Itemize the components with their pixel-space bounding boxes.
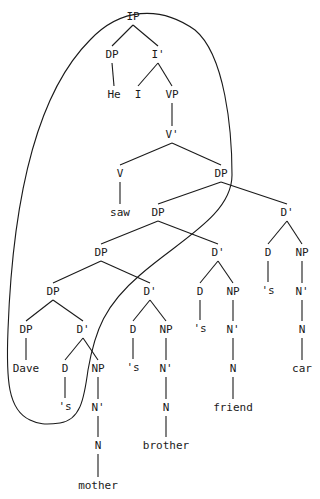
tree-edge	[138, 63, 158, 86]
tree-edge	[65, 338, 83, 360]
tree-node-label: N	[95, 439, 102, 452]
tree-edge	[112, 25, 133, 46]
tree-edge	[221, 182, 287, 204]
tree-node-label: N'	[295, 285, 308, 298]
tree-node-label: D	[62, 362, 69, 375]
tree-node-label: D'	[211, 246, 224, 259]
tree-node-label: 's	[261, 284, 274, 297]
tree-edge	[101, 221, 158, 244]
tree-edge	[158, 182, 221, 204]
tree-node-label: NP	[91, 362, 105, 375]
tree-edge	[53, 300, 83, 321]
tree-node-label: 's	[126, 361, 139, 374]
tree-edge	[158, 221, 218, 244]
tree-node-label: N'	[226, 323, 239, 336]
tree-node-label: NP	[159, 323, 173, 336]
tree-nodes: IPDPI'HeIVPV'VDPsawDPD'DPD'DNPDPD'DNP'sN…	[13, 10, 313, 492]
tree-edge	[53, 261, 101, 283]
tree-node-label: DP	[94, 246, 108, 259]
tree-edge	[26, 300, 53, 321]
tree-node-label: D'	[143, 285, 156, 298]
syntax-tree-diagram: IPDPI'HeIVPV'VDPsawDPD'DPD'DNPDPD'DNP'sN…	[0, 0, 320, 499]
tree-node-label: saw	[110, 206, 130, 219]
tree-node-label: mother	[78, 479, 118, 492]
tree-node-label: brother	[143, 439, 190, 452]
tree-node-label: V	[117, 167, 124, 180]
tree-node-label: VP	[165, 88, 179, 101]
tree-node-label: I'	[151, 48, 164, 61]
tree-node-label: D'	[76, 323, 89, 336]
tree-node-label: DP	[214, 167, 228, 180]
tree-node-label: DP	[46, 285, 60, 298]
tree-edge	[172, 143, 221, 165]
tree-node-label: He	[107, 88, 120, 101]
tree-node-label: friend	[213, 401, 253, 414]
tree-node-label: N'	[159, 362, 172, 375]
tree-node-label: D	[197, 285, 204, 298]
tree-node-label: I	[135, 88, 142, 101]
tree-node-label: DP	[105, 48, 119, 61]
tree-node-label: IP	[126, 10, 140, 23]
tree-edge	[150, 300, 166, 321]
tree-node-label: 's	[58, 400, 71, 413]
tree-edge	[268, 221, 287, 244]
tree-node-label: NP	[295, 246, 309, 259]
tree-node-label: N	[230, 362, 237, 375]
tree-edge	[200, 261, 218, 283]
tree-edge	[218, 261, 233, 283]
tree-node-label: D'	[280, 206, 293, 219]
tree-edge	[158, 63, 172, 86]
tree-node-label: N'	[91, 401, 104, 414]
tree-node-label: Dave	[13, 362, 40, 375]
tree-node-label: DP	[19, 323, 33, 336]
tree-node-label: N	[299, 323, 306, 336]
tree-node-label: D	[130, 323, 137, 336]
tree-node-label: DP	[151, 206, 165, 219]
tree-edge	[120, 143, 172, 165]
tree-edge	[133, 25, 158, 46]
tree-node-label: car	[292, 362, 312, 375]
tree-node-label: N	[163, 401, 170, 414]
tree-node-label: 's	[193, 322, 206, 335]
tree-edge	[133, 300, 150, 321]
tree-node-label: D	[265, 246, 272, 259]
tree-node-label: V'	[165, 128, 178, 141]
tree-edge	[112, 63, 114, 86]
tree-edge	[287, 221, 302, 244]
tree-node-label: NP	[226, 285, 240, 298]
